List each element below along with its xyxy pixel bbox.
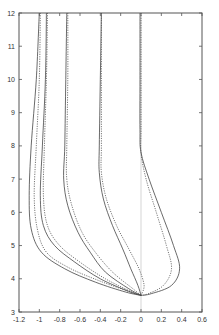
curve-1-dotted (34, 13, 141, 295)
y-tick-label: 10 (7, 76, 15, 83)
x-tick-label: 0 (139, 316, 143, 323)
x-tick-label: -0.4 (94, 316, 106, 323)
curve-3-solid (64, 13, 141, 295)
curve-4-dotted (101, 13, 144, 295)
curve-3-dotted (66, 13, 141, 295)
y-tick-label: 12 (7, 10, 15, 17)
curve-4-solid (99, 13, 141, 295)
plot-frame (19, 13, 202, 312)
x-tick-label: -1.2 (13, 316, 25, 323)
y-tick-label: 3 (11, 309, 15, 316)
plot-curves (29, 13, 179, 295)
curve-5-dotted (141, 13, 172, 295)
y-tick-label: 11 (8, 43, 15, 50)
curve-5-solid (140, 13, 180, 295)
x-tick-label: -0.6 (74, 316, 86, 323)
x-tick-label: -1 (36, 316, 42, 323)
x-tick-label: -0.8 (54, 316, 66, 323)
y-tick-label: 7 (11, 176, 15, 183)
x-tick-label: 0.4 (177, 316, 187, 323)
y-tick-label: 6 (11, 209, 15, 216)
x-tick-label: -0.2 (115, 316, 127, 323)
y-tick-label: 8 (11, 142, 15, 149)
y-tick-label: 4 (11, 275, 15, 282)
x-tick-label: 0.6 (197, 316, 207, 323)
curve-2-dotted (43, 13, 141, 295)
y-axis-ticks: 3456789101112 (7, 10, 202, 316)
chart: -1.2-1-0.8-0.6-0.4-0.200.20.40.6 3456789… (0, 0, 219, 335)
x-tick-label: 0.2 (156, 316, 166, 323)
y-tick-label: 9 (11, 109, 15, 116)
y-tick-label: 5 (11, 242, 15, 249)
